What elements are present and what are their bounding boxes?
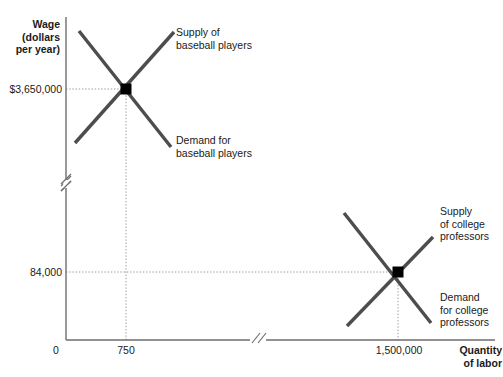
chart-canvas <box>0 0 503 377</box>
equilibrium-marker-college <box>393 267 404 278</box>
x-tick-label-college-quantity: 1,500,000 <box>368 344 430 357</box>
supply-curve-college <box>347 237 433 326</box>
y-tick-label-baseball-wage: $3,650,000 <box>0 83 62 96</box>
curve-label-demand-college: Demand for college professors <box>440 291 503 329</box>
curve-label-demand-baseball: Demand for baseball players <box>176 134 276 159</box>
x-tick-label-origin: 0 <box>48 344 64 357</box>
y-axis-title: Wage (dollars per year) <box>0 18 60 56</box>
x-tick-label-baseball-quantity: 750 <box>106 344 146 357</box>
supply-demand-chart: Wage (dollars per year) $3,650,000 84,00… <box>0 0 503 377</box>
equilibrium-marker-baseball <box>121 84 132 95</box>
leader-lines <box>66 89 398 340</box>
x-axis-break-icon <box>250 333 266 343</box>
baseball-market-curves <box>75 31 174 147</box>
curve-label-supply-baseball: Supply of baseball players <box>176 26 276 51</box>
x-axis-title: Quantity of labor <box>434 344 502 369</box>
axes <box>66 17 495 340</box>
curve-label-supply-college: Supply of college professors <box>440 205 503 243</box>
y-tick-label-college-wage: 84,000 <box>0 266 62 279</box>
demand-curve-college <box>344 213 431 323</box>
college-market-curves <box>344 213 433 326</box>
